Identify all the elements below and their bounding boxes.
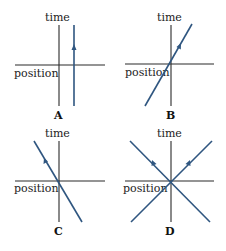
panel-label: D (165, 225, 175, 238)
panel-b: time position B (125, 11, 214, 122)
panel-label: A (53, 109, 63, 122)
panel-label: C (54, 225, 63, 238)
time-axis-label: time (157, 127, 182, 140)
time-axis-label: time (157, 11, 182, 24)
worldline-diagram: time position A time position B time pos… (0, 0, 226, 251)
time-axis-label: time (45, 127, 70, 140)
arrow-up-icon (72, 44, 77, 50)
time-axis-label: time (45, 11, 70, 24)
worldline (145, 24, 192, 106)
position-axis-label: position (14, 67, 58, 80)
panel-a: time position A (14, 11, 105, 122)
panel-label: B (166, 109, 175, 122)
panel-c: time position C (14, 127, 105, 238)
position-axis-label: position (14, 182, 58, 195)
panel-d: time position D (123, 127, 214, 238)
position-axis-label: position (125, 66, 169, 79)
